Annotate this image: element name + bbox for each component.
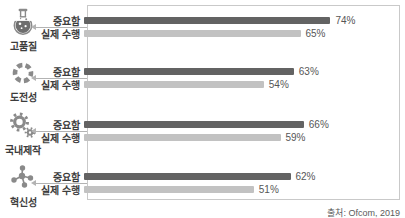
bar-row: 실제 수행 65%	[0, 27, 405, 40]
series-label-actual: 실제 수행	[0, 26, 84, 41]
series-label-actual: 실제 수행	[0, 77, 84, 92]
category-group-challenge: 도전성 중요함 63% 실제 수행 54%	[0, 65, 405, 93]
bar-actual	[84, 186, 254, 193]
bar-importance	[84, 17, 330, 24]
bar-importance	[84, 68, 294, 75]
category-group-domestic: 국내제작 중요함 66% 실제 수행 59%	[0, 118, 405, 146]
value-label: 51%	[259, 184, 279, 195]
category-group-innovation: 혁신성 중요함 62% 실제 수행 51%	[0, 170, 405, 198]
category-label: 국내제작	[0, 146, 46, 156]
value-label: 54%	[269, 79, 289, 90]
bar-actual	[84, 134, 281, 141]
category-label: 혁신성	[0, 198, 46, 208]
bar-importance	[84, 121, 304, 128]
series-label-actual: 실제 수행	[0, 130, 84, 145]
value-label: 59%	[286, 132, 306, 143]
value-label: 63%	[299, 66, 319, 77]
bar-row: 실제 수행 51%	[0, 183, 405, 196]
category-group-quality: 고품질 중요함 74% 실제 수행 65%	[0, 14, 405, 42]
bar-row: 실제 수행 54%	[0, 78, 405, 91]
value-label: 62%	[296, 171, 316, 182]
bar-actual	[84, 30, 301, 37]
bar-actual	[84, 81, 264, 88]
source-note: 출처: Ofcom, 2019	[327, 206, 400, 218]
value-label: 65%	[306, 28, 326, 39]
value-label: 66%	[309, 119, 329, 130]
category-label: 도전성	[0, 93, 46, 103]
series-label-actual: 실제 수행	[0, 182, 84, 197]
bar-importance	[84, 173, 291, 180]
category-label: 고품질	[0, 42, 46, 52]
value-label: 74%	[335, 15, 355, 26]
bar-row: 실제 수행 59%	[0, 131, 405, 144]
chart-canvas: { "chart_data": { "type": "bar", "orient…	[0, 0, 405, 218]
